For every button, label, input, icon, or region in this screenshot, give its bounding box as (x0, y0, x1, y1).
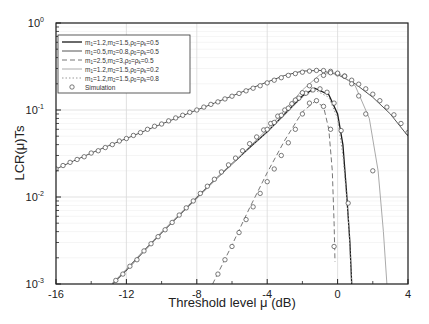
y-tick-label: 100 (28, 16, 44, 29)
simulation-marker (223, 258, 227, 262)
simulation-marker (163, 228, 167, 232)
simulation-marker (117, 139, 121, 143)
x-axis-title: Threshold level μ (dB) (168, 295, 295, 310)
simulation-marker (265, 127, 269, 131)
simulation-marker (339, 128, 343, 132)
x-tick-label: 0 (335, 288, 341, 300)
simulation-marker (68, 160, 72, 164)
simulation-marker (364, 87, 368, 91)
simulation-marker (181, 113, 185, 117)
simulation-marker (237, 91, 241, 95)
simulation-marker (156, 234, 160, 238)
x-tick-label: -16 (48, 288, 64, 300)
simulation-marker (173, 116, 177, 120)
simulation-marker (166, 119, 170, 123)
simulation-marker (230, 94, 234, 98)
simulation-marker (286, 106, 290, 110)
simulation-marker (177, 213, 181, 217)
simulation-marker (300, 70, 304, 74)
simulation-marker (244, 217, 248, 221)
legend-entry-simulation: Simulation (85, 84, 116, 91)
simulation-marker (290, 102, 294, 106)
simulation-marker (135, 258, 139, 262)
simulation-marker (191, 199, 195, 203)
simulation-marker (202, 105, 206, 109)
simulation-marker (258, 191, 262, 195)
simulation-marker (184, 206, 188, 210)
simulation-marker (124, 136, 128, 140)
simulation-marker (318, 87, 322, 91)
y-tick-label: 10-2 (26, 190, 45, 203)
simulation-marker (371, 92, 375, 96)
simulation-marker (244, 89, 248, 93)
simulation-marker (254, 135, 258, 139)
simulation-marker (110, 142, 114, 146)
simulation-marker (272, 120, 276, 124)
simulation-marker (61, 163, 65, 167)
simulation-marker (121, 272, 125, 276)
y-tick-label: 10-3 (26, 277, 45, 290)
simulation-marker (138, 130, 142, 134)
simulation-marker (240, 149, 244, 153)
simulation-marker (223, 97, 227, 101)
x-tick-label: 4 (405, 288, 411, 300)
y-tick-labels: 10-310-210-1100 (26, 16, 45, 290)
simulation-marker (251, 205, 255, 209)
simulation-marker (89, 151, 93, 155)
simulation-marker (307, 101, 311, 105)
simulation-marker (114, 278, 118, 282)
simulation-marker (279, 76, 283, 80)
simulation-marker (399, 121, 403, 125)
simulation-marker (311, 88, 315, 92)
simulation-marker (205, 184, 209, 188)
simulation-marker (82, 155, 86, 159)
simulation-marker (357, 94, 361, 98)
x-tick-label: -12 (118, 288, 134, 300)
simulation-marker (230, 244, 234, 248)
simulation-marker (279, 153, 283, 157)
simulation-marker (392, 113, 396, 117)
simulation-marker (247, 141, 251, 145)
simulation-marker (226, 163, 230, 167)
simulation-marker (272, 167, 276, 171)
simulation-marker (272, 78, 276, 82)
simulation-marker (233, 156, 237, 160)
simulation-marker (258, 84, 262, 88)
simulation-marker (152, 124, 156, 128)
simulation-marker (342, 74, 346, 78)
simulation-marker (265, 81, 269, 85)
simulation-marker (219, 170, 223, 174)
simulation-marker (131, 133, 135, 137)
simulation-marker (96, 149, 100, 153)
simulation-marker (216, 100, 220, 104)
simulation-marker (237, 230, 241, 234)
simulation-marker (328, 71, 332, 75)
simulation-marker (188, 110, 192, 114)
simulation-marker (335, 71, 339, 75)
simulation-marker (159, 122, 163, 126)
simulation-marker (149, 242, 153, 246)
simulation-marker (307, 69, 311, 73)
simulation-marker (198, 191, 202, 195)
simulation-marker (321, 104, 325, 108)
chart: -16-12-8-404 10-310-210-1100 Threshold l… (0, 0, 429, 324)
simulation-marker (325, 90, 329, 94)
simulation-marker (170, 220, 174, 224)
simulation-marker (321, 73, 325, 77)
simulation-marker (209, 102, 213, 106)
simulation-marker (216, 272, 220, 276)
simulation-marker (103, 145, 107, 149)
simulation-marker (332, 244, 336, 248)
simulation-marker (286, 73, 290, 77)
simulation-marker (364, 112, 368, 116)
simulation-markers (54, 68, 410, 282)
simulation-marker (293, 127, 297, 131)
simulation-marker (371, 169, 375, 173)
simulation-marker (212, 177, 216, 181)
simulation-marker (307, 84, 311, 88)
simulation-marker (142, 249, 146, 253)
y-tick-label: 10-1 (26, 103, 45, 116)
simulation-marker (378, 98, 382, 102)
simulation-marker (314, 78, 318, 82)
legend: m1=1.2,m2=1.5,ρ0=ρk=0.5m1=0.5,m2=0.8,ρ0=… (58, 35, 190, 93)
